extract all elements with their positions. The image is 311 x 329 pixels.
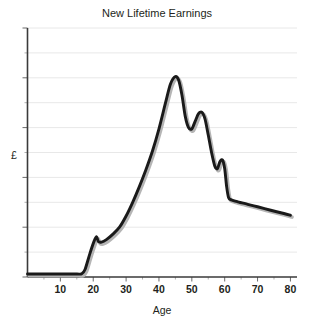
x-axis-label: Age [153, 304, 172, 316]
x-tick-label: 60 [219, 283, 231, 295]
chart-title: New Lifetime Earnings [102, 7, 213, 19]
y-axis-label: £ [11, 149, 17, 161]
lifetime-earnings-chart: New Lifetime Earnings 1020304050607080 £… [0, 0, 311, 329]
x-tick-label: 70 [252, 283, 264, 295]
chart-figure: New Lifetime Earnings 1020304050607080 £… [0, 0, 311, 329]
x-tick-label: 50 [186, 283, 198, 295]
x-tick-label: 40 [153, 283, 165, 295]
x-tick-label: 80 [285, 283, 297, 295]
x-tick-label: 30 [120, 283, 132, 295]
x-tick-label: 10 [55, 283, 67, 295]
chart-background [0, 0, 311, 329]
x-tick-label: 20 [87, 283, 99, 295]
